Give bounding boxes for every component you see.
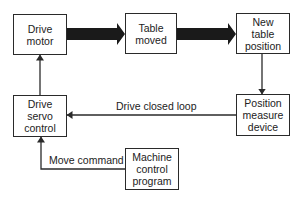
thick-arrow-table-to-position bbox=[177, 23, 236, 45]
closed-loop-label: Drive closed loop bbox=[116, 100, 197, 112]
move-command-label: Move command bbox=[49, 154, 124, 166]
table-moved-label: Table moved bbox=[135, 22, 167, 46]
drive-motor-box: Drive motor bbox=[13, 14, 67, 55]
position-measure-device-label: Position measure device bbox=[243, 97, 284, 133]
position-measure-device-box: Position measure device bbox=[236, 94, 290, 136]
drive-servo-control-label: Drive servo control bbox=[24, 98, 56, 134]
machine-control-program-label: Machine control program bbox=[132, 151, 172, 187]
new-table-position-label: New table position bbox=[245, 16, 281, 52]
new-table-position-box: New table position bbox=[236, 13, 290, 54]
machine-control-program-box: Machine control program bbox=[125, 148, 179, 190]
drive-motor-label: Drive motor bbox=[27, 23, 54, 47]
drive-servo-control-box: Drive servo control bbox=[13, 95, 67, 137]
table-moved-box: Table moved bbox=[125, 13, 177, 54]
thick-arrow-motor-to-table bbox=[67, 23, 125, 45]
